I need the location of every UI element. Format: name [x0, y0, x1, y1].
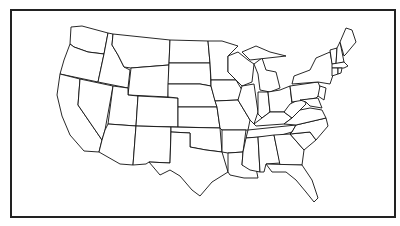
us-states-map — [0, 0, 400, 226]
state-kansas — [178, 107, 220, 128]
state-maine — [340, 28, 356, 56]
state-south-dakota — [168, 63, 211, 86]
state-new-york — [292, 52, 334, 84]
state-michigan — [254, 58, 280, 92]
state-colorado — [136, 96, 178, 127]
state-mississippi — [242, 137, 260, 172]
state-connecticut — [332, 68, 338, 76]
state-florida — [266, 164, 318, 202]
state-iowa — [211, 80, 242, 101]
state-michigan-upper — [242, 46, 286, 60]
state-new-jersey — [318, 86, 326, 100]
state-north-dakota — [169, 40, 210, 63]
state-wyoming — [128, 65, 169, 97]
state-rhode-island — [338, 68, 342, 74]
state-new-mexico — [133, 126, 171, 165]
state-arkansas — [222, 130, 246, 153]
state-arizona — [99, 124, 136, 165]
